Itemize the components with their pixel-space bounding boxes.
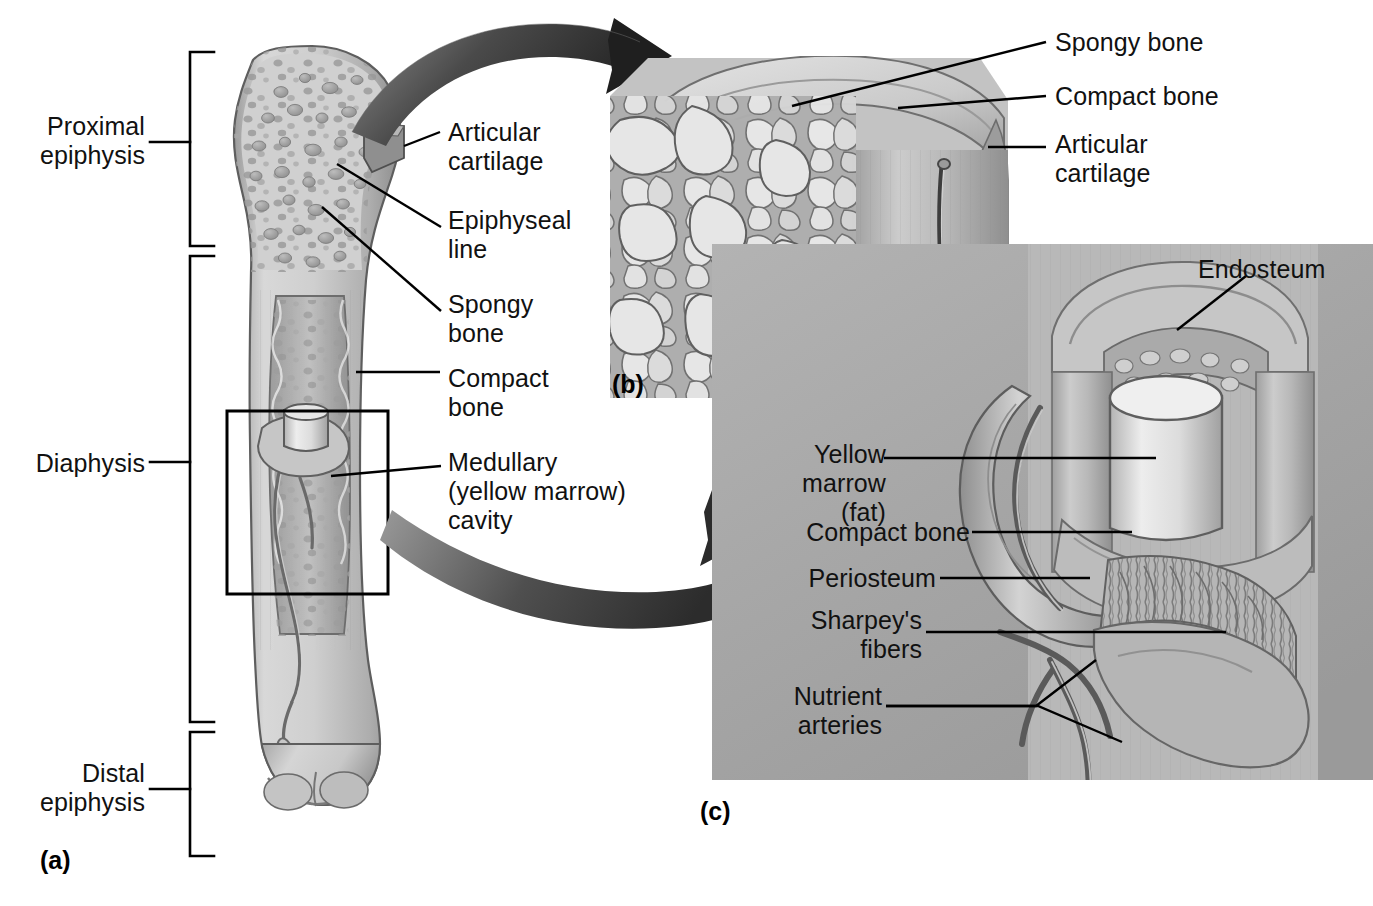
- leader-articular-cartilage: [404, 132, 440, 146]
- label-c-sharpeys-fibers: Sharpey's fibers: [740, 606, 922, 664]
- panel-a-femur-illustration: [230, 40, 410, 810]
- label-distal-epiphysis: Distal epiphysis: [10, 759, 145, 817]
- bone-structure-figure: Proximal epiphysis Diaphysis Distal epip…: [0, 0, 1373, 906]
- label-medullary-cavity: Medullary (yellow marrow) cavity: [448, 448, 626, 534]
- label-b-spongy-bone: Spongy bone: [1055, 28, 1203, 57]
- label-c-yellow-marrow: Yellow marrow (fat): [786, 440, 886, 526]
- label-compact-bone: Compact bone: [448, 364, 549, 422]
- label-epiphyseal-line: Epiphyseal line: [448, 206, 571, 264]
- panel-marker-c: (c): [700, 797, 731, 826]
- panel-marker-a: (a): [40, 846, 71, 875]
- label-diaphysis: Diaphysis: [10, 449, 145, 478]
- bracket-proximal-epiphysis: [190, 52, 214, 246]
- label-b-articular-cartilage: Articular cartilage: [1055, 130, 1150, 188]
- bracket-distal-epiphysis: [190, 732, 214, 856]
- label-c-endosteum: Endosteum: [1198, 255, 1325, 284]
- panel-marker-b: (b): [612, 370, 644, 399]
- figure-artwork: [0, 0, 1373, 906]
- panel-a-brackets: [150, 52, 214, 856]
- label-c-nutrient-arteries: Nutrient arteries: [740, 682, 882, 740]
- label-b-compact-bone: Compact bone: [1055, 82, 1219, 111]
- label-proximal-epiphysis: Proximal epiphysis: [10, 112, 145, 170]
- bracket-diaphysis: [190, 256, 214, 722]
- label-spongy-bone: Spongy bone: [448, 290, 533, 348]
- label-c-compact-bone: Compact bone: [740, 518, 970, 547]
- label-articular-cartilage: Articular cartilage: [448, 118, 543, 176]
- label-c-periosteum: Periosteum: [740, 564, 936, 593]
